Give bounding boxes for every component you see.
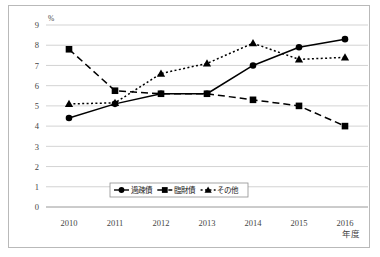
x-tick-label-2010: 2010	[61, 218, 78, 228]
x-tick-label-2016: 2016	[337, 218, 354, 228]
y-tick-label-0: 0	[35, 202, 39, 212]
y-tick-label-5: 5	[35, 101, 39, 111]
data-point-過疎債-2016	[342, 36, 349, 43]
x-tick-label-2015: 2015	[291, 218, 308, 228]
data-point-臨財債-2013	[204, 90, 211, 97]
y-tick-label-4: 4	[35, 121, 40, 131]
data-point-その他-2012	[157, 69, 165, 76]
data-point-臨財債-2016	[342, 123, 349, 130]
y-tick-label-7: 7	[35, 61, 39, 71]
y-tick-label-6: 6	[35, 81, 39, 91]
data-point-その他-2010	[65, 100, 73, 107]
line-chart: 0123456789%2010201120122013201420152016年…	[0, 0, 380, 257]
y-tick-label-9: 9	[35, 20, 39, 30]
data-point-臨財債-2012	[158, 90, 165, 97]
data-point-臨財債-2011	[112, 87, 119, 94]
data-point-臨財債-2010	[66, 46, 73, 53]
chart-svg: 0123456789%2010201120122013201420152016年…	[0, 0, 380, 257]
chart-legend: 過疎債臨財債その他	[110, 183, 248, 197]
x-tick-label-2014: 2014	[245, 218, 263, 228]
legend-marker-臨財債	[162, 187, 168, 193]
y-tick-label-1: 1	[35, 182, 39, 192]
data-point-過疎債-2015	[296, 44, 303, 51]
y-tick-label-8: 8	[35, 40, 39, 50]
x-tick-label-2013: 2013	[199, 218, 216, 228]
legend-label-過疎債: 過疎債	[131, 185, 153, 195]
data-point-過疎債-2014	[250, 62, 257, 69]
data-point-その他-2016	[341, 53, 349, 60]
y-tick-label-2: 2	[35, 162, 39, 172]
data-point-臨財債-2015	[296, 103, 303, 110]
legend-label-臨財債: 臨財債	[174, 185, 196, 195]
data-point-臨財債-2014	[250, 97, 257, 104]
series-臨財債	[66, 46, 349, 129]
legend-label-その他: その他	[217, 185, 239, 195]
x-tick-label-2011: 2011	[107, 218, 124, 228]
y-axis-unit-label: %	[48, 14, 54, 23]
legend-marker-過疎債	[119, 187, 125, 193]
x-axis-unit-label: 年度	[342, 229, 360, 239]
data-point-その他-2014	[249, 39, 257, 46]
data-point-過疎債-2010	[66, 115, 73, 122]
x-tick-label-2012: 2012	[153, 218, 170, 228]
y-tick-label-3: 3	[35, 142, 39, 152]
